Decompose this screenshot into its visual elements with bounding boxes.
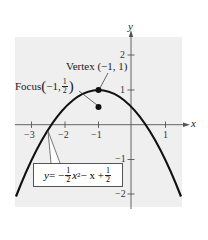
focus-fraction: 12 [62, 78, 68, 95]
focus-coord-x: −1, [46, 81, 60, 92]
x-tick-label: −3 [24, 130, 35, 140]
focus-point [96, 104, 102, 110]
focus-close-paren: ) [69, 79, 74, 94]
equation-label: y = −12x2 − x + 12 [33, 163, 123, 187]
y-tick-label: 2 [120, 50, 125, 60]
x-tick-label: 1 [163, 130, 168, 140]
focus-label: Focus ( −1, 12 ) [15, 78, 74, 95]
focus-label-text: Focus [15, 81, 41, 92]
x-tick-label: −2 [58, 130, 69, 140]
y-tick-label: 1 [120, 85, 125, 95]
vertex-point [96, 87, 102, 93]
y-tick-label: −2 [115, 189, 126, 199]
vertex-label: Vertex (−1, 1) [66, 61, 128, 72]
x-tick-label: −1 [91, 130, 102, 140]
x-axis-arrow-icon [183, 123, 190, 127]
x-axis-label: x [191, 118, 196, 129]
y-axis-label: y [128, 21, 133, 32]
